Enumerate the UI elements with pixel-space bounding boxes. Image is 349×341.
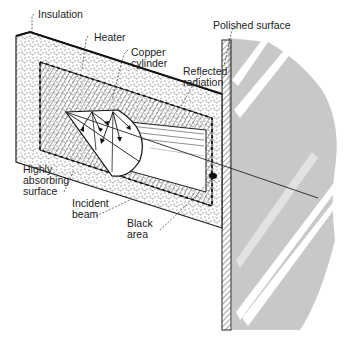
label-copper-cylinder: Copper cylinder	[131, 47, 167, 69]
label-heater: Heater	[94, 32, 126, 43]
label-reflected-radiation: Reflected radiation	[183, 66, 227, 88]
label-black-area: Black area	[127, 218, 153, 240]
label-insulation: Insulation	[38, 9, 83, 20]
label-incident-beam: Incident beam	[72, 198, 109, 220]
label-polished-surface: Polished surface	[213, 20, 291, 31]
label-highly-absorbing-surface: Highly absorbing surface	[23, 164, 69, 197]
black-area-spot	[209, 173, 217, 179]
polished-surface-region	[228, 38, 338, 330]
